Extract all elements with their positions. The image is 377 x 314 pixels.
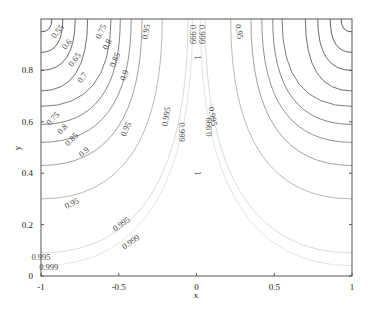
x-tick-label: -0.5 xyxy=(112,282,127,292)
contour-label: 0.8 xyxy=(55,121,70,136)
x-axis-label: x xyxy=(194,290,199,300)
contour-label: 0.9 xyxy=(117,68,130,81)
contour-line xyxy=(341,19,352,32)
contour-label: 0.995 xyxy=(159,106,172,127)
contour-line xyxy=(318,19,352,70)
contour-label: 0.999 xyxy=(197,25,207,44)
contour-line xyxy=(231,19,352,199)
center-markers: 11 xyxy=(193,55,203,175)
contour-label-center: 1 xyxy=(193,171,203,175)
contour-label: 0.95 xyxy=(233,23,245,39)
y-axis-label: y xyxy=(12,145,22,150)
contour-label: 0.999 xyxy=(177,123,187,142)
y-tick-label: 0.8 xyxy=(22,65,34,75)
contour-line xyxy=(251,19,352,165)
y-axis-ticks: 00.20.40.60.8 xyxy=(22,65,352,281)
contour-label-center: 1 xyxy=(193,55,203,59)
contour-line xyxy=(41,19,142,165)
y-tick-label: 0.2 xyxy=(22,220,33,230)
contour-plot: 0.550.60.650.70.750.80.850.90.950.9990.9… xyxy=(0,0,377,314)
x-tick-label: 1 xyxy=(350,282,355,292)
x-tick-label: 0.5 xyxy=(269,282,281,292)
contour-label: 0.75 xyxy=(93,23,108,41)
y-tick-label: 0.4 xyxy=(22,168,34,178)
contour-label: 0.65 xyxy=(66,51,83,69)
y-tick-label: 0.6 xyxy=(22,117,34,127)
contour-label: 0.7 xyxy=(75,70,89,84)
contour-line xyxy=(282,19,352,106)
contour-label: 0.9 xyxy=(77,145,92,159)
contour-label: 0.6 xyxy=(59,37,73,52)
contour-line xyxy=(205,19,352,253)
contour-line xyxy=(41,19,52,32)
contour-line xyxy=(273,19,352,124)
contour-label: 0.999 xyxy=(39,262,58,272)
contour-line xyxy=(200,19,352,266)
contour-label: 0.999 xyxy=(120,232,141,251)
contour-label: 0.95 xyxy=(63,195,81,210)
contour-line xyxy=(330,19,352,52)
contour-label: 0.85 xyxy=(107,51,122,69)
x-tick-label: -1 xyxy=(37,282,45,292)
contour-label: 0.85 xyxy=(63,130,81,148)
y-tick-label: 0 xyxy=(29,271,34,281)
contour-labels: 0.550.60.650.70.750.80.850.90.950.9990.9… xyxy=(31,22,245,272)
contour-label: 0.995 xyxy=(111,214,132,233)
contour-label: 0.999 xyxy=(188,25,198,44)
contour-label: 0.999 xyxy=(204,117,214,136)
contour-label: 0.95 xyxy=(139,23,151,39)
